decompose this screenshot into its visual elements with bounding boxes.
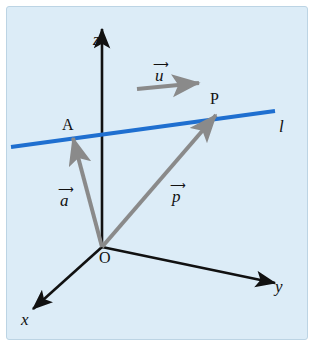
axis-label-z: z [93,31,100,48]
line-l [11,111,275,147]
axis-label-y: y [275,278,283,295]
point-label-p: P [210,91,219,107]
point-label-o: O [99,250,111,266]
axis-label-x: x [21,311,29,328]
vector-p-arrow [102,115,216,247]
vector-diagram-svg [7,7,307,339]
figure-panel: z y x O A P l ⟶ u ⟶ a ⟶ p [6,6,308,340]
point-label-a: A [62,117,74,133]
diagram-page: z y x O A P l ⟶ u ⟶ a ⟶ p [0,0,319,359]
axis-y [102,247,275,283]
vector-u-arrow [137,83,199,89]
line-label-l: l [279,118,284,135]
axis-x [33,247,102,309]
vector-a-arrow [73,138,102,247]
